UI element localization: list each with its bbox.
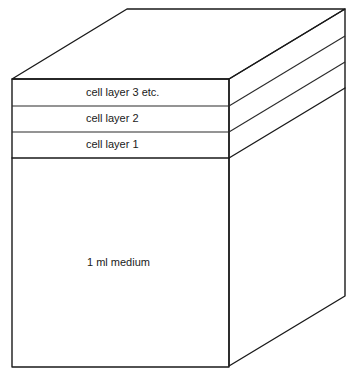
label-cell-layer-3: cell layer 3 etc. [86,87,159,98]
label-cell-layer-1: cell layer 1 [86,139,139,150]
box-drawing [0,0,355,379]
label-medium: 1 ml medium [87,257,150,268]
side-divider-layer3-layer2 [229,36,345,106]
box-side-face [229,9,345,366]
box-top-face [12,9,345,79]
side-divider-layer2-layer1 [229,62,345,132]
label-cell-layer-2: cell layer 2 [86,113,139,124]
side-divider-layer1-medium [229,88,345,158]
